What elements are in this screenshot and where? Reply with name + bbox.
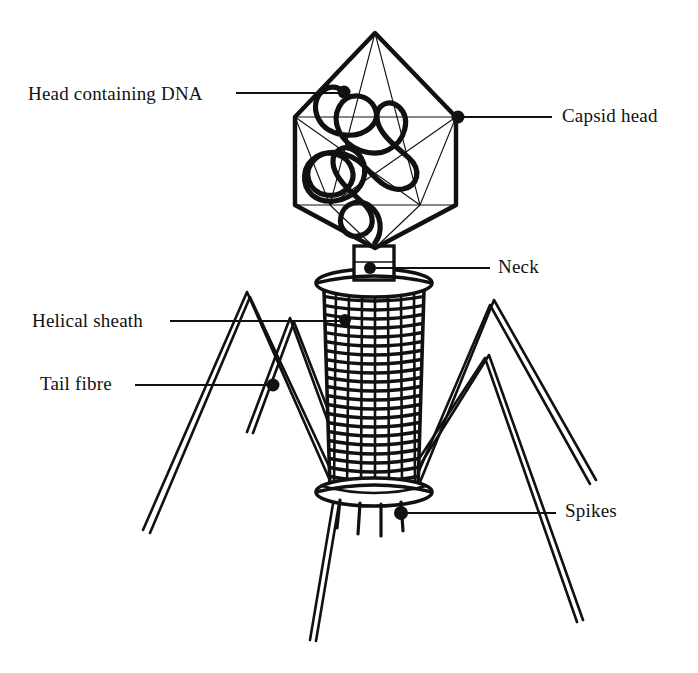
dot-helical-sheath xyxy=(339,314,351,326)
spike-2 xyxy=(358,503,360,534)
dot-capsid-head xyxy=(452,111,465,124)
label-neck: Neck xyxy=(498,256,539,278)
label-head-containing-dna: Head containing DNA xyxy=(28,83,203,105)
label-capsid-head: Capsid head xyxy=(562,105,658,127)
label-tail-fibre: Tail fibre xyxy=(40,373,112,395)
dot-head-containing-dna xyxy=(338,86,351,99)
dot-neck xyxy=(364,262,376,274)
dot-spikes xyxy=(394,506,408,520)
label-spikes: Spikes xyxy=(565,500,617,522)
label-helical-sheath: Helical sheath xyxy=(32,310,143,332)
helical-sheath xyxy=(322,288,426,490)
bacteriophage-diagram: Head containing DNA Capsid head Neck Hel… xyxy=(0,0,698,673)
dot-tail-fibre xyxy=(267,379,280,392)
